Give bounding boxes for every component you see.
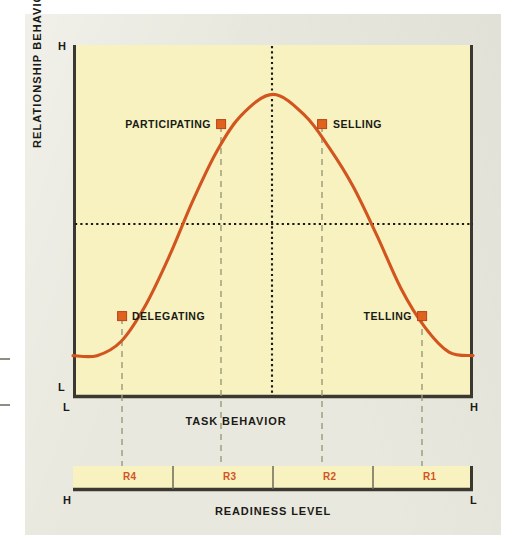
style-label-selling: SELLING [333,118,382,130]
y-axis-high-label: H [58,40,66,52]
readiness-right-label: L [470,494,477,506]
x-axis-low-label: L [63,401,70,413]
style-label-telling: TELLING [364,310,412,322]
x-axis-title: TASK BEHAVIOR [185,415,286,427]
readiness-axis-title: READINESS LEVEL [215,505,331,517]
readiness-segment-r3: R3 [223,471,237,482]
style-label-participating: PARTICIPATING [125,118,211,130]
readiness-segment-r4: R4 [123,471,137,482]
chart-container: RELATIONSHIP BEHAVIOR H L L H TASK BEHAV… [0,0,520,545]
situational-leadership-figure: RELATIONSHIP BEHAVIOR H L L H TASK BEHAV… [0,0,520,545]
readiness-segment-r1: R1 [423,471,437,482]
y-axis-title: RELATIONSHIP BEHAVIOR [31,0,43,148]
style-label-delegating: DELEGATING [132,310,205,322]
marker-delegating [118,312,127,321]
y-axis-low-label: L [58,381,65,393]
readiness-segment-r2: R2 [323,471,337,482]
marker-participating [217,120,226,129]
readiness-left-label: H [63,494,71,506]
x-axis-high-label: H [470,401,478,413]
marker-selling [318,120,327,129]
chart-graphics [0,0,520,545]
marker-telling [418,312,427,321]
